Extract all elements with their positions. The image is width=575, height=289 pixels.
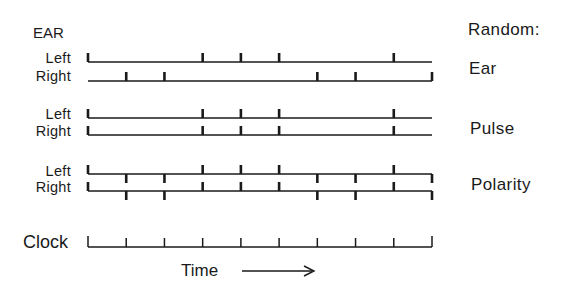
polarity-right-trace [88, 182, 432, 200]
clock-trace [88, 236, 432, 247]
pulse-left-trace [88, 109, 432, 118]
pulse-right-trace [88, 126, 432, 135]
signal-traces [88, 53, 432, 200]
right-arrow-icon [242, 266, 314, 276]
ear-left-trace [88, 53, 432, 62]
pulse-timing-diagram [0, 0, 575, 289]
ear-right-trace [88, 72, 432, 81]
polarity-left-trace [88, 165, 432, 183]
